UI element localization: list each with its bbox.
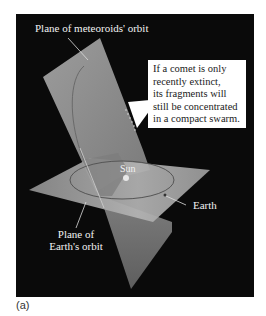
comet-callout-box: If a comet is only recently extinct, its… [148, 60, 246, 128]
earth-label: Earth [193, 199, 217, 211]
earth-plane-label-line2: Earth's orbit [46, 240, 106, 252]
earth-plane-label-line1: Plane of [46, 228, 106, 240]
earth-plane-leader [76, 202, 86, 228]
sun-label: Sun [120, 163, 136, 175]
callout-line: If a comet is only [153, 63, 243, 76]
earth-plane-label: Plane of Earth's orbit [46, 228, 106, 252]
callout-line: its fragments will [153, 88, 243, 101]
callout-line: recently extinct, [153, 76, 243, 89]
sun-icon [123, 175, 129, 181]
figure-caption: (a) [16, 299, 29, 311]
callout-line: still be concentrated [153, 101, 243, 114]
meteoroid-plane-label: Plane of meteoroids' orbit [35, 22, 149, 34]
callout-line: in a compact swarm. [153, 113, 243, 126]
orbit-planes-illustration [0, 0, 266, 316]
